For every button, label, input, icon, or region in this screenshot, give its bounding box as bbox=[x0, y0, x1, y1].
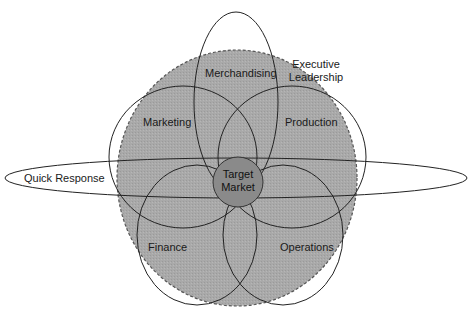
finance-label: Finance bbox=[148, 241, 187, 254]
target-market-label: Target Market bbox=[213, 168, 263, 194]
functional-diagram bbox=[0, 0, 471, 313]
operations-label: Operations bbox=[280, 241, 334, 254]
production-label: Production bbox=[285, 116, 338, 129]
merchandising-label: Merchandising bbox=[205, 67, 277, 80]
target-label-line1: Target bbox=[213, 168, 263, 181]
executive-label-line1: Executive bbox=[284, 58, 348, 71]
marketing-label: Marketing bbox=[143, 116, 191, 129]
executive-leadership-label: Executive Leadership bbox=[284, 58, 348, 84]
quick-response-label: Quick Response bbox=[24, 172, 105, 185]
target-label-line2: Market bbox=[213, 181, 263, 194]
executive-label-line2: Leadership bbox=[284, 71, 348, 84]
